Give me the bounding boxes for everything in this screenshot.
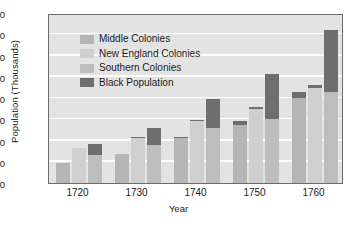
legend-label: Black Population (99, 77, 174, 89)
bar-newengland (72, 148, 86, 183)
y-axis-tick-label: 500 (0, 72, 5, 83)
bar-segment-colony (190, 121, 204, 183)
chart-legend: Middle ColoniesNew England ColoniesSouth… (80, 33, 200, 89)
legend-swatch-icon (80, 49, 94, 58)
bar-segment-black-population (324, 30, 338, 92)
bar-segment-colony (249, 109, 263, 183)
bar-southern (265, 74, 279, 183)
bar-segment-colony (147, 145, 161, 183)
bar-segment-black-population (206, 99, 220, 128)
bar-middle (292, 92, 306, 183)
legend-item: New England Colonies (80, 48, 200, 60)
y-axis-tick-label: 100 (0, 157, 5, 168)
y-axis-tick-label: 300 (0, 115, 5, 126)
x-axis-tick-label: 1740 (171, 187, 221, 198)
legend-label: Southern Colonies (99, 62, 181, 74)
legend-swatch-icon (80, 78, 94, 87)
bar-segment-colony (206, 128, 220, 183)
legend-item: Southern Colonies (80, 62, 200, 74)
y-axis-tick-label: 800 (0, 9, 5, 20)
bar-segment-colony (265, 119, 279, 183)
y-axis-tick-label: 600 (0, 51, 5, 62)
population-bar-chart: Population (Thousands) 01002003004005006… (0, 0, 357, 232)
bar-segment-black-population (131, 137, 145, 138)
bar-segment-colony (72, 148, 86, 183)
legend-label: Middle Colonies (99, 33, 170, 45)
bar-newengland (190, 120, 204, 183)
bar-segment-black-population (190, 120, 204, 122)
y-axis-tick-label: 400 (0, 94, 5, 105)
bar-newengland (249, 107, 263, 184)
bar-segment-black-population (292, 92, 306, 98)
y-axis-tick-label: 200 (0, 136, 5, 147)
bar-southern (324, 30, 338, 183)
bar-segment-black-population (147, 128, 161, 145)
bar-segment-colony (88, 155, 102, 183)
bar-southern (88, 144, 102, 183)
bar-newengland (131, 137, 145, 183)
bar-segment-black-population (174, 137, 188, 138)
bar-segment-black-population (308, 85, 322, 88)
bar-middle (56, 163, 70, 183)
bar-segment-colony (131, 138, 145, 183)
x-axis-title: Year (0, 203, 357, 214)
bar-segment-colony (56, 163, 70, 183)
bar-group (292, 15, 338, 183)
x-axis-tick-label: 1760 (289, 187, 339, 198)
legend-swatch-icon (80, 35, 94, 44)
bar-segment-colony (174, 138, 188, 183)
bar-segment-colony (324, 92, 338, 183)
x-axis-tick-label: 1720 (53, 187, 103, 198)
x-axis-tick-label: 1750 (230, 187, 280, 198)
bar-segment-black-population (249, 107, 263, 110)
legend-label: New England Colonies (99, 48, 200, 60)
y-axis-tick-label: 700 (0, 30, 5, 41)
bar-southern (206, 99, 220, 183)
bar-middle (174, 137, 188, 183)
legend-item: Black Population (80, 77, 200, 89)
bar-segment-black-population (233, 121, 247, 125)
bar-segment-colony (292, 98, 306, 183)
bar-newengland (308, 85, 322, 183)
bar-segment-colony (115, 154, 129, 183)
bar-group (233, 15, 279, 183)
x-axis-tick-label: 1730 (112, 187, 162, 198)
bar-segment-colony (233, 125, 247, 183)
y-axis-title: Population (Thousands) (9, 17, 20, 167)
bar-middle (115, 154, 129, 183)
legend-item: Middle Colonies (80, 33, 200, 45)
bar-segment-black-population (265, 74, 279, 118)
y-axis-tick-label: 0 (0, 179, 5, 190)
bar-southern (147, 128, 161, 183)
legend-swatch-icon (80, 64, 94, 73)
bar-middle (233, 121, 247, 183)
bar-segment-black-population (88, 144, 102, 156)
bar-segment-colony (308, 88, 322, 183)
